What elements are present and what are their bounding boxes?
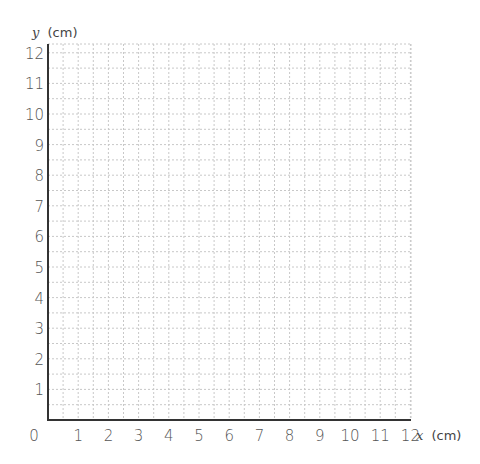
x-tick-label: 7 xyxy=(255,427,265,445)
x-tick-label: 4 xyxy=(164,427,174,445)
x-tick-label: 9 xyxy=(315,427,325,445)
y-tick-label: 8 xyxy=(34,167,44,185)
y-tick-label: 7 xyxy=(34,198,44,216)
x-tick-label: 1 xyxy=(73,427,83,445)
x-tick-label: 10 xyxy=(340,427,359,445)
y-tick-label: 1 xyxy=(34,381,44,399)
y-tick-label: 2 xyxy=(34,351,44,369)
x-axis-unit: (cm) xyxy=(431,428,461,443)
x-tick-label: 11 xyxy=(371,427,390,445)
origin-label: 0 xyxy=(29,427,39,445)
y-tick-label: 9 xyxy=(34,137,44,155)
y-axis-unit: (cm) xyxy=(48,25,78,40)
y-axis-var: y xyxy=(31,25,40,40)
x-axis-title: x (cm) xyxy=(416,428,461,443)
x-tick-labels: 123456789101112 xyxy=(73,427,420,445)
x-tick-label: 2 xyxy=(104,427,114,445)
x-tick-label: 3 xyxy=(134,427,144,445)
coordinate-grid-chart: 123456789101112 123456789101112 0 x (cm)… xyxy=(0,0,480,464)
y-tick-label: 10 xyxy=(25,106,44,124)
y-tick-label: 6 xyxy=(34,228,44,246)
y-tick-label: 11 xyxy=(25,75,44,93)
y-tick-label: 12 xyxy=(25,45,44,63)
y-tick-labels: 123456789101112 xyxy=(25,45,44,400)
x-tick-label: 5 xyxy=(194,427,204,445)
grid-lines xyxy=(48,44,411,420)
x-tick-label: 8 xyxy=(285,427,295,445)
y-tick-label: 3 xyxy=(34,320,44,338)
x-axis-var: x xyxy=(416,428,424,443)
y-tick-label: 4 xyxy=(34,290,44,308)
x-tick-label: 6 xyxy=(224,427,234,445)
y-axis-title: y (cm) xyxy=(31,25,77,40)
y-tick-label: 5 xyxy=(34,259,44,277)
